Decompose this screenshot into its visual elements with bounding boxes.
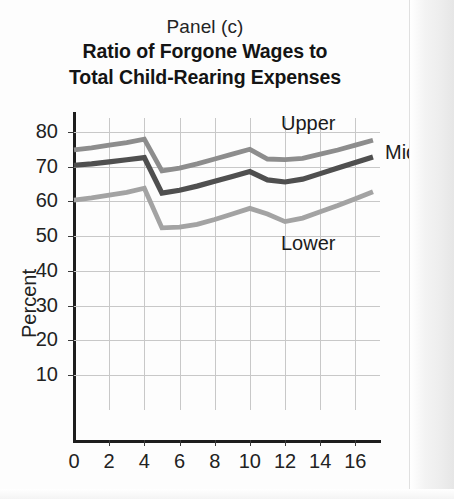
x-tick-6 [180, 440, 181, 446]
series-line-lower [74, 188, 373, 228]
x-tick-label-12: 12 [265, 450, 305, 472]
y-tick-label-20: 20 [14, 329, 58, 349]
series-label-upper: Upper [281, 112, 335, 135]
x-tick-4 [144, 440, 145, 446]
line-chart: Percent 1020304050607080 0246810121416 U… [0, 0, 454, 499]
series-label-middle: Middle [385, 141, 444, 164]
y-tick-label-30: 30 [14, 295, 58, 315]
x-tick-label-10: 10 [230, 450, 270, 472]
y-tick-label-40: 40 [14, 260, 58, 280]
y-tick-label-50: 50 [14, 225, 58, 245]
x-tick-10 [250, 440, 251, 446]
x-tick-label-2: 2 [89, 450, 129, 472]
y-tick-label-60: 60 [14, 190, 58, 210]
x-tick-label-6: 6 [160, 450, 200, 472]
x-tick-2 [109, 440, 110, 446]
x-tick-label-4: 4 [124, 450, 164, 472]
x-tick-label-14: 14 [300, 450, 340, 472]
series-line-middle [74, 157, 373, 193]
x-axis-line [73, 440, 381, 443]
y-tick-label-10: 10 [14, 364, 58, 384]
x-tick-8 [215, 440, 216, 446]
x-tick-label-8: 8 [195, 450, 235, 472]
series-line-upper [74, 139, 373, 171]
y-tick-label-80: 80 [14, 121, 58, 141]
scan-bottom-shadow [0, 489, 454, 499]
x-tick-16 [355, 440, 356, 446]
series-lines [74, 118, 380, 410]
x-tick-label-0: 0 [54, 450, 94, 472]
y-tick-label-70: 70 [14, 156, 58, 176]
figure-page: Panel (c) Ratio of Forgone Wages to Tota… [0, 0, 454, 499]
x-tick-12 [285, 440, 286, 446]
x-tick-label-16: 16 [335, 450, 375, 472]
series-label-lower: Lower [281, 232, 335, 255]
scan-edge-line [409, 0, 411, 499]
plot-area [74, 118, 380, 410]
x-tick-14 [320, 440, 321, 446]
